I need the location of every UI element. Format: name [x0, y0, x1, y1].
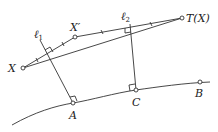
diagram-svg: X X′ T(X) ℓ1 ℓ2 A C B	[0, 0, 218, 132]
curve-ACB	[12, 82, 210, 125]
geometry-diagram: X X′ T(X) ℓ1 ℓ2 A C B	[0, 0, 218, 132]
segment-X-TX	[23, 18, 182, 68]
line-l2	[130, 24, 136, 90]
label-A: A	[68, 109, 77, 122]
label-X: X	[7, 62, 17, 75]
point-C	[134, 88, 138, 92]
label-l1: ℓ1	[34, 28, 43, 42]
label-B: B	[194, 87, 203, 100]
point-T-X	[180, 16, 184, 20]
line-l1	[40, 40, 73, 103]
point-B	[198, 80, 202, 84]
segment-X-Xprime	[23, 37, 75, 68]
label-X-prime: X′	[69, 21, 81, 34]
point-X-prime	[73, 35, 77, 39]
point-A	[71, 101, 75, 105]
point-X	[21, 66, 25, 70]
label-T-X: T(X)	[186, 12, 210, 25]
label-C: C	[132, 96, 141, 109]
label-l2: ℓ2	[121, 10, 130, 24]
